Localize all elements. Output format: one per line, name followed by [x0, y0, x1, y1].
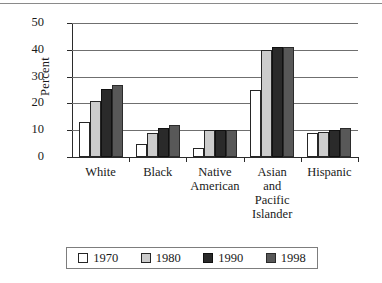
- bar: [169, 125, 180, 157]
- x-axis-category-label: Hispanic: [295, 165, 364, 179]
- legend-item: 1980: [141, 252, 181, 264]
- y-axis-tick-label: 40: [18, 43, 44, 55]
- bar: [226, 130, 237, 157]
- bar: [272, 47, 283, 157]
- bar: [204, 130, 215, 157]
- bar: [136, 144, 147, 157]
- bar: [90, 101, 101, 157]
- chart-legend: 1970198019901998: [66, 247, 318, 269]
- x-axis-tick: [244, 157, 245, 162]
- bar: [147, 133, 158, 157]
- legend-swatch-icon: [203, 253, 213, 263]
- bar: [329, 130, 340, 157]
- x-axis-tick: [129, 157, 130, 162]
- legend-item: 1970: [78, 252, 118, 264]
- bar: [250, 90, 261, 157]
- y-axis-tick-label: 50: [18, 16, 44, 28]
- legend-label: 1990: [218, 252, 243, 264]
- legend-swatch-icon: [266, 253, 276, 263]
- x-axis-tick: [186, 157, 187, 162]
- bar: [101, 89, 112, 157]
- bar: [193, 148, 204, 157]
- legend-label: 1970: [93, 252, 118, 264]
- plot-area: Percent 01020304050: [72, 23, 358, 158]
- bar: [283, 47, 294, 157]
- legend-swatch-icon: [78, 253, 88, 263]
- legend-label: 1980: [156, 252, 181, 264]
- legend-item: 1990: [203, 252, 243, 264]
- y-axis-tick: [67, 157, 72, 158]
- bar-cluster: [186, 23, 243, 157]
- bar-cluster: [244, 23, 301, 157]
- y-axis-tick-label: 20: [18, 96, 44, 108]
- bar-chart-figure: Percent 01020304050 WhiteBlackNative Ame…: [0, 0, 382, 283]
- y-axis-tick-label: 30: [18, 70, 44, 82]
- bar: [158, 128, 169, 157]
- bar: [307, 133, 318, 157]
- x-axis-tick: [301, 157, 302, 162]
- bar-cluster: [72, 23, 129, 157]
- bar: [215, 130, 226, 157]
- bar: [79, 122, 90, 157]
- y-axis-tick-label: 0: [18, 150, 44, 162]
- x-axis-line: [72, 157, 358, 158]
- bar: [261, 50, 272, 157]
- legend-item: 1998: [266, 252, 306, 264]
- bar: [318, 132, 329, 157]
- legend-label: 1998: [281, 252, 306, 264]
- y-axis-tick-label: 10: [18, 123, 44, 135]
- bar: [340, 128, 351, 157]
- legend-swatch-icon: [141, 253, 151, 263]
- bar-cluster: [129, 23, 186, 157]
- bar-cluster: [301, 23, 358, 157]
- x-axis-tick: [358, 157, 359, 162]
- bar: [112, 85, 123, 157]
